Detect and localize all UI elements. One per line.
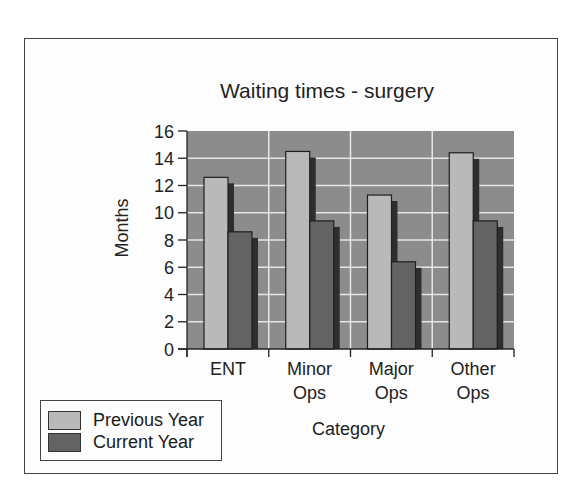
legend-label: Current Year bbox=[93, 432, 194, 453]
y-tick-label: 10 bbox=[154, 203, 174, 223]
y-tick-label: 2 bbox=[164, 312, 174, 332]
bar-current-year bbox=[392, 262, 416, 349]
bar-previous-year bbox=[286, 151, 310, 349]
y-tick-label: 8 bbox=[164, 231, 174, 251]
y-axis-title: Months bbox=[112, 198, 132, 257]
x-tick-label: Ops bbox=[375, 383, 408, 403]
y-tick-label: 4 bbox=[164, 285, 174, 305]
bar-current-year bbox=[473, 221, 497, 349]
x-tick-label: Ops bbox=[457, 383, 490, 403]
bar-previous-year bbox=[368, 195, 392, 349]
bar-previous-year bbox=[449, 153, 473, 349]
y-tick-label: 6 bbox=[164, 258, 174, 278]
y-tick-label: 16 bbox=[154, 122, 174, 142]
bar-current-year bbox=[310, 221, 334, 349]
legend-swatch-previous-year bbox=[48, 411, 81, 430]
bar-previous-year bbox=[204, 177, 228, 349]
x-tick-label: Minor bbox=[287, 359, 332, 379]
legend: Previous Year Current Year bbox=[40, 400, 222, 461]
x-tick-label: Ops bbox=[293, 383, 326, 403]
legend-swatch-current-year bbox=[48, 433, 81, 452]
x-tick-label: ENT bbox=[210, 359, 246, 379]
y-tick-label: 14 bbox=[154, 149, 174, 169]
bar-current-year bbox=[228, 232, 252, 349]
y-tick-label: 0 bbox=[164, 340, 174, 360]
legend-item-current-year: Current Year bbox=[48, 431, 194, 453]
x-tick-label: Other bbox=[451, 359, 496, 379]
y-tick-label: 12 bbox=[154, 176, 174, 196]
legend-item-previous-year: Previous Year bbox=[48, 409, 204, 431]
legend-label: Previous Year bbox=[93, 410, 204, 431]
x-axis-title: Category bbox=[312, 419, 385, 439]
x-tick-label: Major bbox=[369, 359, 414, 379]
